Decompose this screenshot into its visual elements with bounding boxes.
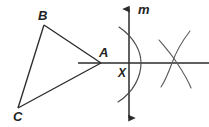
- label-point-x: X: [118, 67, 126, 79]
- label-vertex-a: A: [99, 46, 108, 59]
- construction-arc-upper-right: [161, 31, 190, 87]
- construction-arc-lower-right: [159, 40, 191, 88]
- label-line-m: m: [138, 3, 150, 16]
- label-vertex-b: B: [38, 9, 47, 22]
- figure-canvas: [0, 0, 209, 127]
- triangle-side-ab: [44, 25, 101, 63]
- geometry-figure: B C A X m: [0, 0, 209, 127]
- label-vertex-c: C: [13, 110, 22, 123]
